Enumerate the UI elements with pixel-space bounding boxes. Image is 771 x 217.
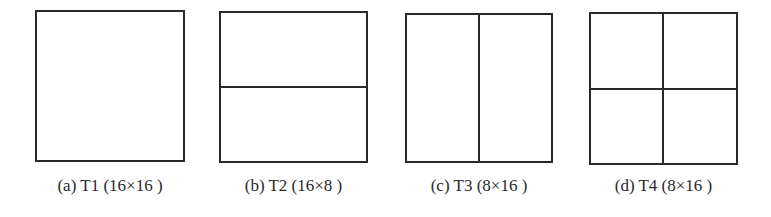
vertical-split-line xyxy=(478,15,480,161)
horizontal-split-line xyxy=(221,86,366,88)
caption-t1: (a) T1 (16×16 ) xyxy=(35,176,185,196)
caption-t4: (d) T4 (8×16 ) xyxy=(589,176,738,196)
block-t1-16x16 xyxy=(35,10,185,162)
block-t3-8x16 xyxy=(405,13,553,163)
block-t2-16x8 xyxy=(219,11,368,163)
caption-t2: (b) T2 (16×8 ) xyxy=(219,176,368,196)
caption-t3: (c) T3 (8×16 ) xyxy=(405,176,553,196)
vertical-split-line xyxy=(662,14,664,163)
block-t4-8x16 xyxy=(589,12,738,165)
